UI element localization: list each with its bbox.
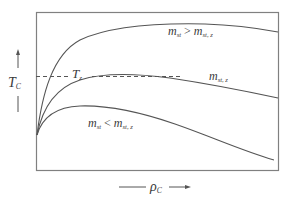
y-axis-label: TC [8,76,21,91]
curve-mid-lhs-sub: st, z [218,76,228,83]
x-axis-label: ρC [150,180,162,195]
plot-frame [37,13,279,171]
curve-high-rhs: m [194,24,203,38]
curve-high-operator: > [181,24,194,38]
diagram-canvas [0,0,291,203]
x-axis-arrowhead-icon [185,185,191,189]
x-axis-label-main: ρ [150,179,157,194]
curve-low [37,106,274,160]
curve-mid-lhs: m [209,69,218,83]
y-axis-arrowhead-icon [16,49,20,55]
curve-high-rhs-sub: st, z [203,31,213,38]
curve-high-lhs: m [168,24,177,38]
curve-low-rhs-sub: st, z [123,123,133,130]
tz-label-sub: z [79,74,82,82]
curve-high-label: mst > mst, z [168,25,213,38]
curve-low-lhs: m [88,116,97,130]
curve-low-operator: < [101,116,114,130]
y-axis-label-main: T [8,75,16,90]
curve-mid [37,75,278,136]
curve-mid-label: mst, z [209,70,228,83]
curve-low-rhs: m [114,116,123,130]
curve-low-label: mst < mst, z [88,117,133,130]
y-axis-label-sub: C [16,82,21,91]
tz-reference-label: Tz [72,67,82,82]
x-axis-label-sub: C [157,186,162,195]
